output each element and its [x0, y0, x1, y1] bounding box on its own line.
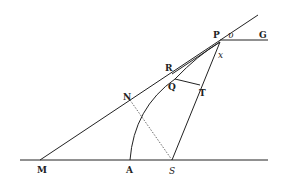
label-Q: Q: [168, 82, 176, 92]
diagram-canvas: M A S N R Q T P υ x G: [0, 0, 283, 181]
tangent-MP: [40, 15, 258, 160]
label-v: υ: [228, 30, 234, 40]
geometry-figure: M A S N R Q T P υ x G: [0, 0, 283, 181]
curve-AQP: [130, 42, 220, 160]
label-R: R: [165, 63, 173, 73]
label-N: N: [123, 92, 131, 102]
label-x: x: [218, 50, 223, 60]
label-P: P: [213, 30, 220, 40]
label-T: T: [199, 88, 206, 98]
label-S: S: [169, 166, 175, 176]
label-A: A: [125, 165, 134, 175]
label-G: G: [259, 30, 267, 40]
line-QT: [175, 79, 200, 85]
label-M: M: [37, 165, 47, 175]
